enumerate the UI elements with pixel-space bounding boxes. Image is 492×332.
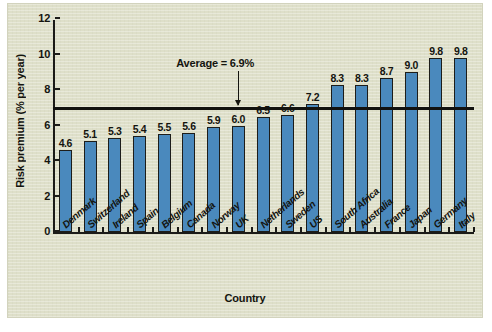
bar-value-label: 5.6 xyxy=(182,120,195,132)
x-tick xyxy=(300,227,302,232)
bar-value-label: 6.0 xyxy=(232,113,245,125)
x-tick xyxy=(127,227,129,232)
bar-value-label: 5.3 xyxy=(108,125,121,137)
y-tick-label: 6 xyxy=(44,119,50,131)
x-tick xyxy=(78,227,80,232)
y-tick-label: 8 xyxy=(44,83,50,95)
bar-value-label: 8.3 xyxy=(330,72,343,84)
bar: 9.8 xyxy=(429,58,442,232)
bar-value-label: 6.5 xyxy=(256,104,269,116)
bar-value-label: 8.3 xyxy=(355,72,368,84)
x-axis-title: Country xyxy=(8,292,482,304)
bar-value-label: 8.7 xyxy=(380,65,393,77)
bar-value-label: 5.4 xyxy=(133,123,146,135)
y-tick-label: 10 xyxy=(38,48,50,60)
bar-value-label: 4.6 xyxy=(59,137,72,149)
x-tick xyxy=(325,227,327,232)
x-tick xyxy=(102,227,104,232)
x-tick xyxy=(399,227,401,232)
y-tick: 6 xyxy=(55,124,60,126)
x-axis-line xyxy=(53,232,474,234)
x-tick xyxy=(424,227,426,232)
y-tick-label: 0 xyxy=(44,225,50,237)
x-tick xyxy=(473,227,475,232)
x-tick xyxy=(251,227,253,232)
bar-value-label: 9.8 xyxy=(454,45,467,57)
bar-value-label: 9.0 xyxy=(405,59,418,71)
average-arrow xyxy=(238,71,239,105)
x-tick xyxy=(226,227,228,232)
x-tick xyxy=(448,227,450,232)
y-tick-label: 4 xyxy=(44,154,50,166)
x-tick xyxy=(374,227,376,232)
x-tick xyxy=(349,227,351,232)
y-tick: 12 xyxy=(55,17,60,19)
x-tick xyxy=(201,227,203,232)
x-tick xyxy=(275,227,277,232)
y-axis-title: Risk premium (% per year) xyxy=(14,54,26,188)
y-tick-label: 2 xyxy=(44,190,50,202)
y-tick-label: 12 xyxy=(38,12,50,24)
bar-value-label: 7.2 xyxy=(306,91,319,103)
average-line xyxy=(53,107,474,110)
bar-value-label: 5.5 xyxy=(157,121,170,133)
y-tick: 8 xyxy=(55,88,60,90)
bar-value-label: 5.9 xyxy=(207,114,220,126)
x-tick xyxy=(177,227,179,232)
x-tick xyxy=(152,227,154,232)
y-tick: 10 xyxy=(55,53,60,55)
chart-figure: Risk premium (% per year) Country 024681… xyxy=(8,4,482,317)
bar-value-label: 9.8 xyxy=(429,45,442,57)
average-annotation-label: Average = 6.9% xyxy=(176,57,254,69)
bar-value-label: 5.1 xyxy=(83,128,96,140)
